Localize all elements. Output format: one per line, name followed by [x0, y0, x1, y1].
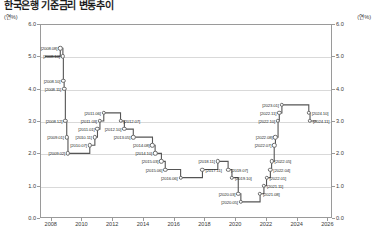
data-point-label: [2012.10] — [105, 127, 122, 132]
x-axis-tick-label: 2026 — [312, 221, 342, 227]
y-axis-tick-mark — [37, 186, 40, 187]
data-point-label: [2010.07] — [70, 143, 87, 148]
gridline — [41, 154, 331, 155]
data-point-label: [2020.03] — [219, 191, 236, 196]
data-point-label: [2022.04] — [273, 167, 290, 172]
y-axis-tick-label: 1.0 — [336, 183, 358, 189]
y-axis-tick-mark — [332, 56, 335, 57]
data-point-label: [2014.08] — [133, 143, 150, 148]
y-axis-tick-label: 3.0 — [14, 118, 36, 124]
data-point-label: [2022.05] — [275, 159, 292, 164]
data-point-label: [2015.03] — [142, 159, 159, 164]
y-axis-tick-label: 2.0 — [14, 150, 36, 156]
data-point-label: [2008.08] — [41, 46, 58, 51]
data-point-label: [2008.10] — [43, 54, 60, 59]
data-point-label: [2016.06] — [161, 175, 178, 180]
y-axis-tick-mark — [37, 218, 40, 219]
y-axis-tick-mark — [332, 89, 335, 90]
y-axis-tick-mark — [37, 153, 40, 154]
y-axis-tick-mark — [332, 24, 335, 25]
x-axis-tick-mark — [174, 218, 175, 221]
data-point-label: [2008.10] — [44, 78, 61, 83]
data-point-label: [2012.07] — [124, 119, 141, 124]
y-axis-tick-label: 3.0 — [336, 118, 358, 124]
y-axis-tick-mark — [332, 218, 335, 219]
data-point-label: [2011.03] — [81, 119, 97, 124]
data-point-label: [2018.11] — [199, 159, 215, 164]
data-point-label: [2024.10] — [312, 110, 329, 115]
data-point-label: [2009.01] — [47, 135, 64, 140]
data-point-label: [2021.11] — [267, 183, 283, 188]
data-point-label: [2022.11] — [260, 110, 276, 115]
y-axis-tick-mark — [37, 56, 40, 57]
data-point-label: [2011.01] — [78, 127, 94, 132]
data-point-label: [2020.05] — [221, 199, 238, 204]
data-point-label: [2023.01] — [262, 102, 279, 107]
x-axis-tick-mark — [112, 218, 113, 221]
data-point-label: [2024.11] — [313, 119, 329, 124]
x-axis-tick-mark — [297, 218, 298, 221]
y-axis-tick-label: 6.0 — [336, 21, 358, 27]
y-axis-tick-mark — [37, 24, 40, 25]
x-axis-tick-label: 2008 — [36, 221, 66, 227]
data-point-label: [2015.06] — [146, 167, 163, 172]
y-axis-tick-label: 4.0 — [14, 86, 36, 92]
x-axis-tick-mark — [81, 218, 82, 221]
x-axis-tick-mark — [204, 218, 205, 221]
y-axis-tick-mark — [37, 89, 40, 90]
x-axis-tick-label: 2012 — [97, 221, 127, 227]
y-axis-tick-label: 5.0 — [14, 53, 36, 59]
data-point-label: [2008.12] — [46, 119, 63, 124]
data-point-label: [2017.11] — [205, 167, 221, 172]
y-axis-tick-label: 1.0 — [14, 183, 36, 189]
x-axis-tick-mark — [235, 218, 236, 221]
data-point-label: [2013.05] — [114, 135, 131, 140]
y-axis-tick-label: 6.0 — [14, 21, 36, 27]
x-axis-tick-mark — [266, 218, 267, 221]
y-axis-tick-label: 4.0 — [336, 86, 358, 92]
y-axis-tick-label: 0.0 — [14, 215, 36, 221]
x-axis-tick-label: 2016 — [159, 221, 189, 227]
gridline — [41, 57, 331, 58]
data-point-label: [2021.08] — [263, 191, 280, 196]
chart-plot-area: 6.06.05.05.04.04.03.03.02.02.01.01.00.00… — [0, 0, 375, 249]
x-axis-tick-mark — [51, 218, 52, 221]
x-axis-tick-label: 2024 — [282, 221, 312, 227]
data-point-label: [2022.10] — [258, 119, 275, 124]
data-point-label: [2022.07] — [255, 143, 272, 148]
y-axis-tick-mark — [37, 121, 40, 122]
x-axis-tick-label: 2010 — [66, 221, 96, 227]
data-point-label: [2022.08] — [256, 135, 273, 140]
y-axis-tick-mark — [332, 153, 335, 154]
y-axis-tick-mark — [332, 186, 335, 187]
gridline — [41, 187, 331, 188]
data-point-label: [2010.11] — [76, 135, 92, 140]
x-axis-tick-mark — [327, 218, 328, 221]
y-axis-tick-mark — [332, 121, 335, 122]
x-axis-tick-label: 2014 — [128, 221, 158, 227]
data-point-label: [2009.02] — [48, 151, 65, 156]
data-point-label: [2019.07] — [231, 167, 248, 172]
data-point-label: [2014.10] — [136, 151, 153, 156]
x-axis-tick-mark — [143, 218, 144, 221]
y-axis-tick-label: 5.0 — [336, 53, 358, 59]
x-axis-tick-label: 2018 — [189, 221, 219, 227]
x-axis-tick-label: 2022 — [251, 221, 281, 227]
gridline — [41, 90, 331, 91]
x-axis-tick-label: 2020 — [220, 221, 250, 227]
y-axis-tick-label: 2.0 — [336, 150, 358, 156]
data-point-label: [2008.11] — [45, 86, 61, 91]
data-point-label: [2022.01] — [270, 175, 287, 180]
data-point-label: [2011.06] — [85, 110, 101, 115]
data-point-label: [2019.10] — [235, 175, 252, 180]
